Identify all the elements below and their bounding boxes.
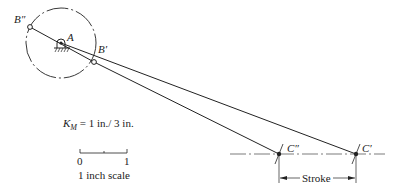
scale-caption: 1 inch scale bbox=[78, 170, 130, 181]
crank-line bbox=[30, 27, 94, 62]
joint-b-prime bbox=[92, 60, 97, 65]
joint-c-prime bbox=[354, 152, 358, 156]
scale-end: 1 bbox=[124, 156, 130, 167]
label-c-double-prime: C″ bbox=[287, 143, 299, 154]
label-b-double-prime: B″ bbox=[14, 14, 25, 25]
rod-to-c-double-prime bbox=[94, 62, 279, 154]
scale-bar bbox=[80, 149, 127, 153]
label-c-prime: C′ bbox=[362, 143, 372, 154]
stroke-label: Stroke bbox=[302, 173, 331, 184]
scale-start: 0 bbox=[77, 156, 83, 167]
rod-to-c-prime bbox=[61, 43, 356, 154]
scale-factor: KM = 1 in./ 3 in. bbox=[63, 118, 134, 132]
joint-b-double-prime bbox=[28, 25, 33, 30]
slider-crank-diagram bbox=[0, 0, 395, 193]
label-a: A bbox=[67, 32, 74, 43]
joint-c-double-prime bbox=[277, 152, 281, 156]
label-b-prime: B′ bbox=[98, 44, 107, 55]
